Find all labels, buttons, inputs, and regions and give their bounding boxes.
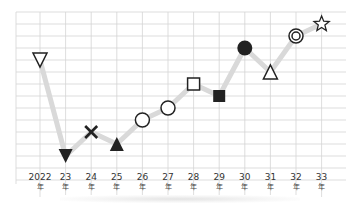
tick-year: 25 (111, 172, 122, 182)
tick-year: 24 (85, 172, 96, 182)
tick-year: 2022 (29, 172, 52, 182)
trend-line (40, 24, 322, 156)
tick-year: 27 (162, 172, 173, 182)
tick-year: 28 (188, 172, 199, 182)
tick-year: 31 (265, 172, 276, 182)
marker-circle-filled (237, 41, 252, 56)
tick-year: 32 (290, 172, 301, 182)
tick-year: 26 (137, 172, 148, 182)
tick-year: 29 (213, 172, 224, 182)
marker-circle-open (161, 101, 175, 115)
marker-circle-open (135, 113, 149, 127)
ground-shadow (60, 195, 300, 203)
marker-double-circle (289, 29, 303, 43)
tick-year: 30 (239, 172, 250, 182)
tick-year: 33 (316, 172, 327, 182)
tick-year: 23 (60, 172, 71, 182)
tick-unit: 年 (307, 182, 337, 192)
data-markers (33, 16, 329, 163)
marker-square-open (188, 78, 200, 90)
x-tick-label: 33年 (307, 172, 337, 192)
marker-square-filled (213, 90, 225, 102)
